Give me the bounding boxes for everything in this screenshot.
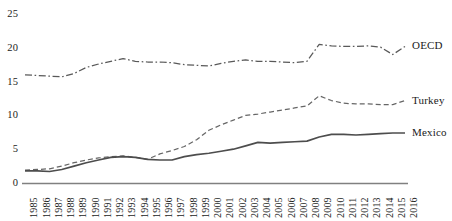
- x-tick-label: 2016: [409, 197, 419, 218]
- x-tick-label: 1988: [66, 197, 76, 218]
- series-label-oecd: OECD: [412, 40, 443, 51]
- x-tick-label: 2015: [397, 197, 407, 218]
- x-tick-label: 2003: [250, 197, 260, 218]
- x-tick-label: 2011: [348, 198, 358, 218]
- x-tick-label: 1991: [103, 197, 113, 218]
- x-tick-label: 2008: [311, 197, 321, 218]
- series-label-turkey: Turkey: [412, 95, 445, 106]
- x-tick-label: 2002: [238, 197, 248, 218]
- chart-plot-area: [0, 0, 452, 221]
- x-tick-label: 2007: [299, 197, 309, 218]
- y-tick-label: 20: [0, 43, 18, 54]
- x-tick-label: 1999: [201, 197, 211, 218]
- x-tick-label: 1994: [140, 197, 150, 218]
- x-tick-label: 1987: [54, 197, 64, 218]
- y-tick-label: 5: [0, 144, 18, 155]
- x-tick-label: 2013: [372, 197, 382, 218]
- x-tick-label: 2009: [323, 197, 333, 218]
- x-tick-label: 1996: [164, 197, 174, 218]
- series-group: [25, 44, 405, 171]
- x-tick-label: 2006: [287, 197, 297, 218]
- series-label-mexico: Mexico: [412, 127, 447, 138]
- x-tick-label: 1993: [127, 197, 137, 218]
- x-tick-label: 1995: [152, 197, 162, 218]
- y-tick-label: 15: [0, 77, 18, 88]
- x-tick-label: 1986: [42, 197, 52, 218]
- x-tick-label: 2005: [274, 197, 284, 218]
- x-tick-label: 2012: [360, 197, 370, 218]
- y-tick-label: 0: [0, 178, 18, 189]
- x-tick-label: 1985: [29, 197, 39, 218]
- x-tick-label: 2004: [262, 197, 272, 218]
- series-line-turkey: [25, 96, 405, 170]
- x-tick-label: 2001: [225, 197, 235, 218]
- series-line-mexico: [25, 133, 405, 172]
- y-tick-label: 10: [0, 110, 18, 121]
- x-tick-label: 1989: [78, 197, 88, 218]
- line-chart: 0510152025 19851986198719881989199019911…: [0, 0, 452, 221]
- y-tick-label: 25: [0, 9, 18, 20]
- x-tick-label: 2000: [213, 197, 223, 218]
- series-line-oecd: [25, 44, 405, 76]
- x-tick-label: 1998: [189, 197, 199, 218]
- x-tick-label: 1990: [91, 197, 101, 218]
- x-tick-label: 2010: [336, 197, 346, 218]
- x-tick-label: 2014: [385, 197, 395, 218]
- x-tick-label: 1997: [176, 197, 186, 218]
- x-tick-label: 1992: [115, 197, 125, 218]
